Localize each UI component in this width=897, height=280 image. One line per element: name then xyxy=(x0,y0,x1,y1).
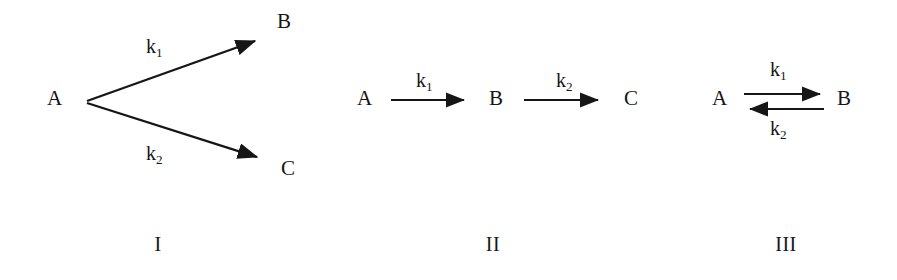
rate-constant-k1-base-scheme-3: k xyxy=(770,58,780,80)
species-label-b-scheme-2: B xyxy=(489,88,503,109)
rate-constant-k1-scheme-3: k1 xyxy=(770,59,787,82)
rate-constant-k2-scheme-2: k2 xyxy=(556,70,573,93)
rate-constant-k1-base-scheme-1: k xyxy=(146,35,156,57)
arrow-a-to-c-scheme-1 xyxy=(87,103,257,157)
scheme-numeral-3: III xyxy=(775,234,796,254)
species-label-a-scheme-3: A xyxy=(712,88,727,109)
rate-constant-k2-subscript-scheme-3: 2 xyxy=(780,127,787,142)
rate-constant-k1-base-scheme-2: k xyxy=(416,69,426,91)
rate-constant-k2-subscript-scheme-1: 2 xyxy=(156,152,163,167)
scheme-3-arrows xyxy=(744,94,824,109)
species-label-c-scheme-2: C xyxy=(624,88,638,109)
species-label-b-scheme-1: B xyxy=(277,11,291,32)
rate-constant-k2-scheme-3: k2 xyxy=(770,118,787,141)
rate-constant-k2-base-scheme-2: k xyxy=(556,69,566,91)
rate-constant-k1-scheme-1: k1 xyxy=(146,36,163,59)
rate-constant-k2-scheme-1: k2 xyxy=(146,143,163,166)
rate-constant-k2-base-scheme-3: k xyxy=(770,117,780,139)
reaction-schemes-figure: A k1 k2 B C I A k1 B k2 C II A k1 k2 B I… xyxy=(0,0,897,280)
scheme-numeral-1: I xyxy=(154,234,161,254)
species-label-c-scheme-1: C xyxy=(281,158,295,179)
species-label-a-scheme-2: A xyxy=(357,88,372,109)
rate-constant-k2-base-scheme-1: k xyxy=(146,142,156,164)
species-label-b-scheme-3: B xyxy=(837,88,851,109)
scheme-numeral-2: II xyxy=(486,234,500,254)
rate-constant-k1-subscript-scheme-3: 1 xyxy=(780,68,787,83)
rate-constant-k1-subscript-scheme-2: 1 xyxy=(426,79,433,94)
rate-constant-k2-subscript-scheme-2: 2 xyxy=(566,79,573,94)
arrow-a-to-b-scheme-1 xyxy=(87,41,255,101)
rate-constant-k1-scheme-2: k1 xyxy=(416,70,433,93)
scheme-1-arrows xyxy=(87,41,257,157)
species-label-a-scheme-1: A xyxy=(47,88,62,109)
rate-constant-k1-subscript-scheme-1: 1 xyxy=(156,45,163,60)
arrow-graphics-layer xyxy=(0,0,897,280)
